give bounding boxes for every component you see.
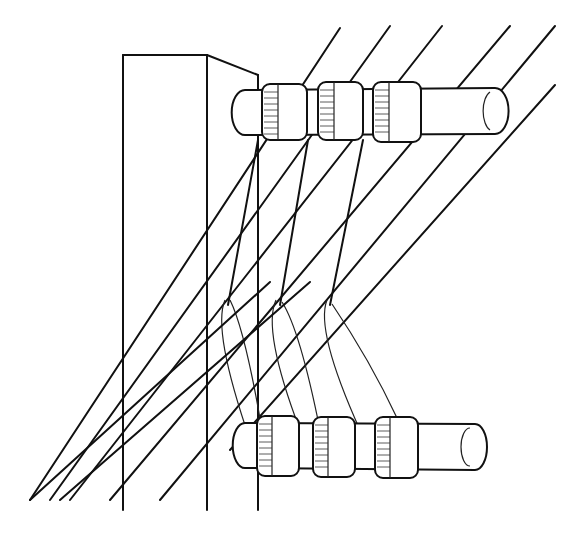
lower-spools xyxy=(257,416,418,478)
spool xyxy=(375,417,418,478)
loom-illustration xyxy=(0,0,587,534)
spool xyxy=(262,84,307,140)
spool xyxy=(313,417,355,477)
spool xyxy=(257,416,299,476)
spool xyxy=(373,82,421,142)
upper-spools xyxy=(262,82,421,142)
spool xyxy=(318,82,363,140)
